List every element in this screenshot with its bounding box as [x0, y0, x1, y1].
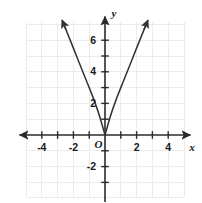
origin-label: O [95, 138, 103, 150]
y-tick-label-6: 6 [90, 34, 96, 46]
y-tick-label-4: 4 [90, 65, 96, 77]
coordinate-plane-svg: -4 -2 2 4 6 4 2 -2 O x y [0, 0, 202, 203]
parabola-graph-figure: -4 -2 2 4 6 4 2 -2 O x y [0, 0, 202, 203]
x-tick-label-neg2: -2 [69, 141, 78, 153]
y-tick-label-2: 2 [90, 97, 96, 109]
x-tick-label-4: 4 [165, 141, 171, 153]
y-axis-label: y [110, 7, 117, 19]
y-tick-label-neg2: -2 [87, 160, 96, 172]
x-tick-label-neg4: -4 [37, 141, 46, 153]
x-axis-label: x [188, 141, 195, 153]
axes [20, 17, 191, 203]
x-tick-label-2: 2 [134, 141, 140, 153]
